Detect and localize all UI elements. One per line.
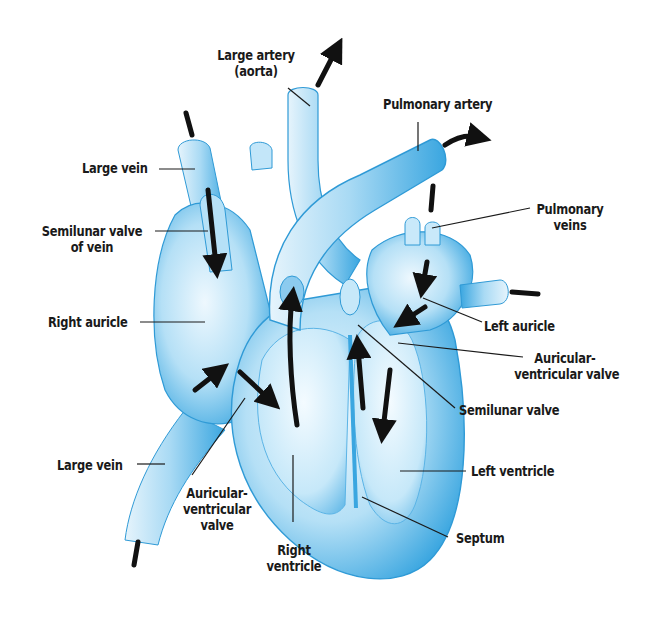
label-semilunar-valve-of-vein: Semilunar valve of vein: [41, 223, 143, 255]
label-pulmonary-artery: Pulmonary artery: [383, 96, 492, 112]
arrow-into-large-vein-top: [186, 113, 192, 135]
label-large-artery: Large artery (aorta): [215, 47, 297, 79]
label-right-ventricle: Right ventricle: [263, 542, 325, 574]
label-left-auricle: Left auricle: [484, 318, 555, 334]
arrow-out-pulmonary-artery: [445, 136, 478, 145]
label-large-vein-bottom: Large vein: [57, 457, 123, 473]
arrow-into-large-vein-bottom: [134, 542, 138, 565]
label-right-auricle: Right auricle: [48, 314, 128, 330]
label-av-valve-left: Auricular- ventricular valve: [180, 485, 254, 533]
label-semilunar-valve: Semilunar valve: [459, 402, 559, 418]
arrow-into-pulmonary-vein-right: [512, 292, 538, 294]
heart-diagram: [0, 0, 653, 619]
arrow-out-aorta: [318, 50, 336, 85]
label-pulmonary-veins: Pulmonary veins: [536, 201, 605, 233]
arrow-into-pulmonary-veins-top: [431, 186, 433, 210]
label-large-vein-top: Large vein: [82, 160, 148, 176]
label-left-ventricle: Left ventricle: [471, 463, 554, 479]
label-septum: Septum: [456, 530, 504, 546]
label-av-valve-right: Auricular- ventricular valve: [514, 350, 616, 382]
